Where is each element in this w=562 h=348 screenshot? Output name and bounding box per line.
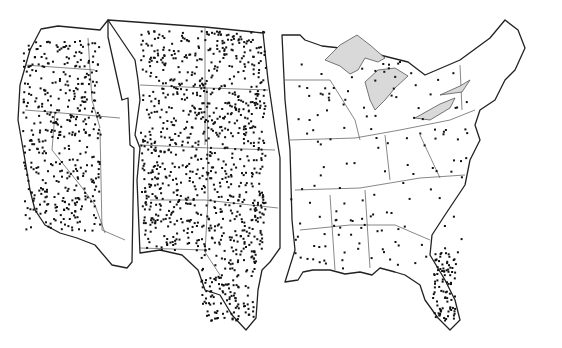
us-dot-density-map — [0, 0, 562, 348]
map-canvas — [0, 0, 562, 348]
east-section — [282, 20, 525, 330]
